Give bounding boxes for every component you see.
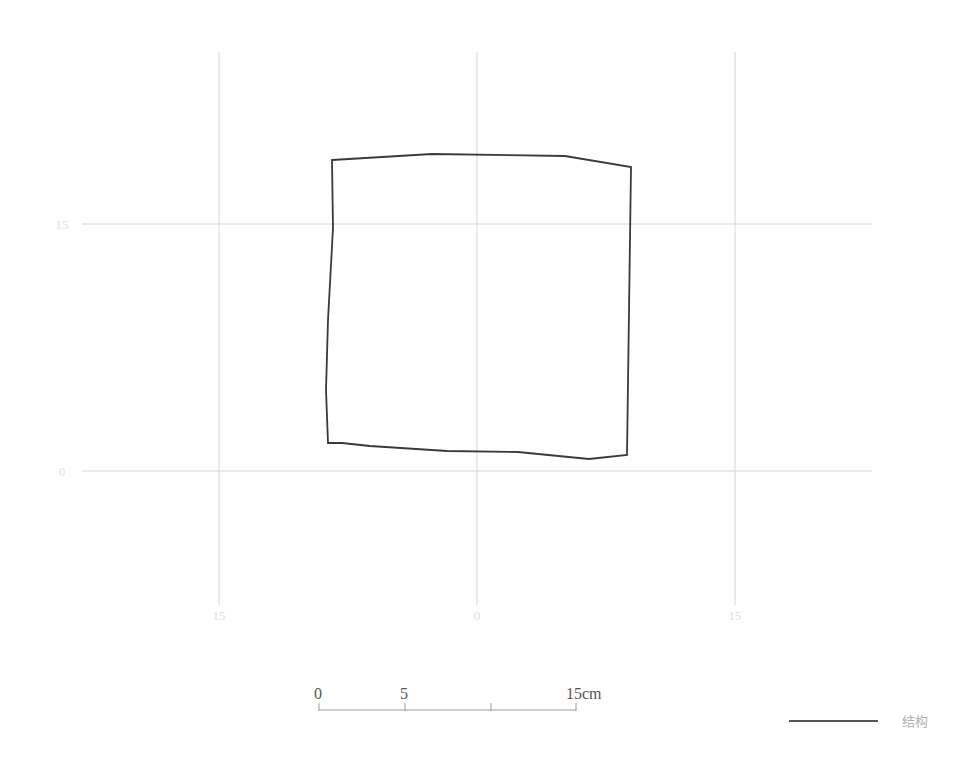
scale-label-0: 0 — [314, 686, 322, 702]
scale-bar — [319, 703, 576, 711]
legend-label-structure: 结构 — [902, 711, 928, 730]
legend-line-swatch — [789, 720, 878, 722]
scale-label-15cm: 15cm — [566, 686, 602, 702]
y-axis-label-0: 0 — [59, 465, 66, 478]
x-axis-label-neg15: 15 — [213, 609, 226, 622]
y-axis-label-15: 15 — [56, 218, 69, 231]
structure-outline — [326, 154, 631, 459]
scale-label-5: 5 — [400, 686, 408, 702]
x-axis-label-0: 0 — [474, 609, 481, 622]
plan-drawing — [0, 0, 977, 765]
x-axis-label-15: 15 — [729, 609, 742, 622]
